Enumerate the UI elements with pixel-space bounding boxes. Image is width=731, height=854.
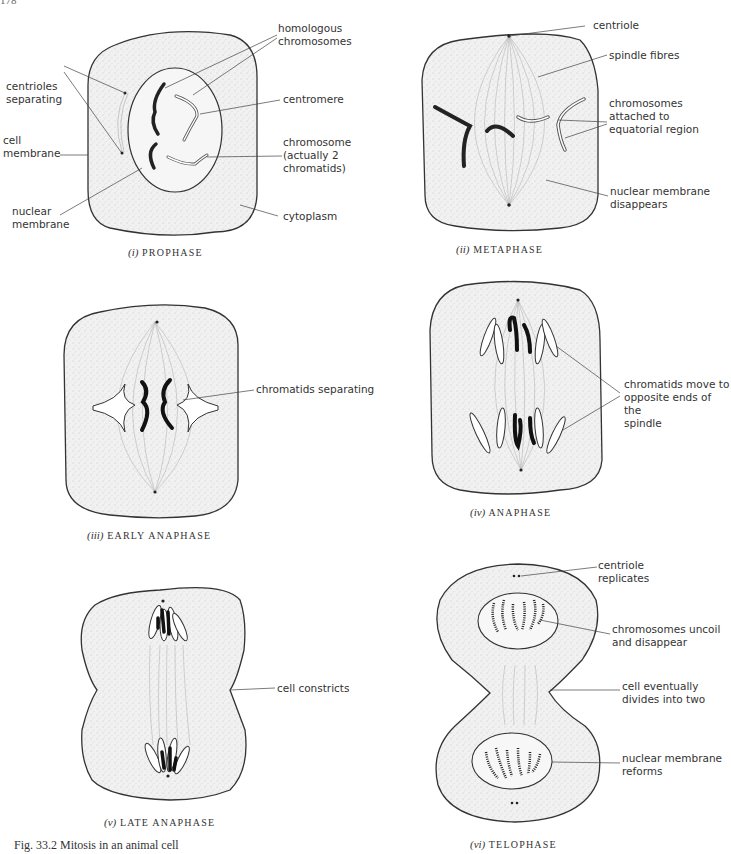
anaphase-cell	[430, 281, 620, 494]
label-spindle-fibres: spindle fibres	[609, 49, 679, 62]
caption-title: TELOPHASE	[489, 839, 557, 850]
label-chromatids-move: chromatids move to opposite ends of the …	[624, 378, 731, 430]
caption-anaphase: (iv) ANAPHASE	[470, 506, 551, 518]
label-cell-membrane: cell membrane	[3, 134, 60, 160]
caption-numeral: (i)	[128, 246, 138, 258]
label-cytoplasm: cytoplasm	[283, 210, 337, 223]
caption-title: LATE ANAPHASE	[120, 817, 215, 828]
label-centriole-replicates: centriole replicates	[598, 559, 649, 585]
caption-telophase: (vi) TELOPHASE	[470, 838, 557, 850]
label-cell-divides: cell eventually divides into two	[622, 680, 705, 706]
label-centriole: centriole	[593, 19, 639, 32]
caption-late-anaphase: (v) LATE ANAPHASE	[104, 816, 215, 828]
label-chromosome: chromosome (actually 2 chromatids)	[283, 136, 351, 175]
label-cell-constricts: cell constricts	[277, 682, 349, 695]
caption-numeral: (vi)	[470, 838, 485, 850]
late-anaphase-cell	[81, 588, 275, 800]
early-anaphase-cell	[64, 305, 254, 518]
caption-title: ANAPHASE	[488, 507, 551, 518]
caption-numeral: (v)	[104, 816, 116, 828]
caption-numeral: (ii)	[456, 243, 469, 255]
caption-numeral: (iv)	[470, 506, 485, 518]
caption-early-anaphase: (iii) EARLY ANAPHASE	[87, 529, 211, 541]
label-nuclear-membrane-reforms: nuclear membrane reforms	[622, 752, 722, 778]
caption-title: PROPHASE	[142, 247, 203, 258]
label-chromatids-separating: chromatids separating	[256, 383, 374, 396]
caption-prophase: (i) PROPHASE	[128, 246, 203, 258]
metaphase-cell	[422, 26, 608, 231]
label-homologous-chromosomes: homologous chromosomes	[278, 22, 352, 48]
caption-numeral: (iii)	[87, 529, 104, 541]
label-nuclear-membrane: nuclear membrane	[12, 205, 69, 231]
telophase-cell	[436, 564, 620, 822]
label-chromosomes-attached: chromosomes attached to equatorial regio…	[609, 97, 699, 136]
label-nuclear-membrane-disappears: nuclear membrane disappears	[610, 185, 710, 211]
prophase-cell	[60, 32, 282, 236]
label-centrioles-separating: centrioles separating	[6, 80, 62, 106]
label-chromosomes-uncoil: chromosomes uncoil and disappear	[612, 623, 720, 649]
label-centromere: centromere	[283, 93, 344, 106]
figure-caption: Fig. 33.2 Mitosis in an animal cell	[14, 838, 179, 853]
caption-metaphase: (ii) METAPHASE	[456, 243, 543, 255]
caption-title: METAPHASE	[473, 244, 543, 255]
caption-title: EARLY ANAPHASE	[107, 530, 211, 541]
